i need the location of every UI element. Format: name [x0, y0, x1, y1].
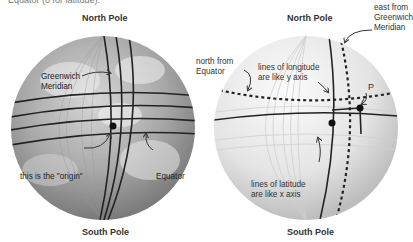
- origin-dot-right: [329, 120, 336, 127]
- coordinate-globe: [214, 30, 398, 220]
- south-pole-label-left: South Pole: [82, 227, 129, 237]
- north-pole-label-left: North Pole: [82, 13, 128, 23]
- longitude-label: lines of longitude are like y axis: [258, 63, 319, 83]
- north-from-equator-label: north from Equator: [196, 57, 233, 77]
- latitude-label: lines of latitude are like x axis: [251, 180, 306, 200]
- point-p-dot: [357, 105, 364, 112]
- point-p-label: P: [368, 82, 374, 92]
- origin-label: this is the "origin": [20, 172, 83, 182]
- north-pole-label-right: North Pole: [287, 13, 333, 23]
- south-pole-label-right: South Pole: [287, 227, 334, 237]
- greenwich-label: Greenwich Meridian: [41, 72, 80, 92]
- equator-label: Equator: [156, 172, 185, 182]
- east-from-greenwich-label: east from Greenwich Meridian: [374, 3, 413, 33]
- origin-dot: [110, 123, 117, 130]
- earth-globe: [5, 36, 200, 220]
